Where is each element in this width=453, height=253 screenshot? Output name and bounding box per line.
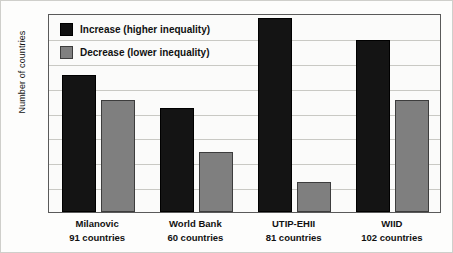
chart-figure: Number of countries 01020304050607080 In… xyxy=(0,0,453,253)
x-tick-label-group: UTIP-EHII81 countries xyxy=(245,217,343,245)
chart-legend: Increase (higher inequality) Decrease (l… xyxy=(56,18,214,68)
x-tick-label-name: World Bank xyxy=(169,218,222,229)
plot-area: Increase (higher inequality) Decrease (l… xyxy=(48,14,441,213)
x-tick-label-count: 81 countries xyxy=(245,231,343,245)
bar-increase xyxy=(62,75,96,212)
legend-item-increase: Increase (higher inequality) xyxy=(60,20,210,39)
bar-increase xyxy=(356,40,390,212)
bar-increase xyxy=(160,108,194,212)
bar-decrease xyxy=(395,100,429,212)
increase-swatch-icon xyxy=(60,23,73,36)
bar-decrease xyxy=(199,152,233,212)
bar-increase xyxy=(258,18,292,212)
bar-decrease xyxy=(101,100,135,212)
bar-decrease xyxy=(297,182,331,212)
x-tick-label-group: WIID102 countries xyxy=(343,217,441,245)
x-tick-label-count: 102 countries xyxy=(343,231,441,245)
x-tick-label-group: Milanovic91 countries xyxy=(48,217,146,245)
x-tick-label-group: World Bank60 countries xyxy=(146,217,244,245)
x-tick-label-count: 91 countries xyxy=(48,231,146,245)
x-tick-label-count: 60 countries xyxy=(146,231,244,245)
legend-label-decrease: Decrease (lower inequality) xyxy=(80,47,210,58)
y-axis-title: Number of countries xyxy=(17,7,27,137)
x-axis-category-labels: Milanovic91 countriesWorld Bank60 countr… xyxy=(48,217,441,253)
decrease-swatch-icon xyxy=(60,46,73,59)
x-tick-label-name: UTIP-EHII xyxy=(272,218,315,229)
x-tick-label-name: WIID xyxy=(381,218,402,229)
x-tick-label-name: Milanovic xyxy=(75,218,118,229)
legend-label-increase: Increase (higher inequality) xyxy=(80,24,210,35)
legend-item-decrease: Decrease (lower inequality) xyxy=(60,43,210,62)
